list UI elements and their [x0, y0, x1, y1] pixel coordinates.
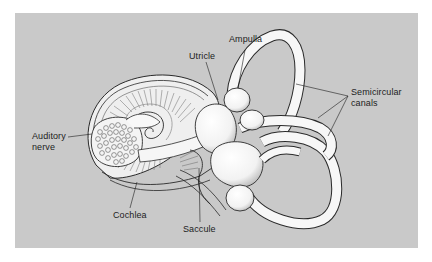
ampulla-upper-shape: [224, 88, 250, 112]
label-utricle: Utricle: [189, 51, 215, 61]
label-auditory-nerve-line2: nerve: [32, 142, 55, 152]
label-ampulla: Ampulla: [229, 34, 262, 44]
ampulla-middle-shape: [240, 110, 264, 130]
label-semicircular-canals-line1: Semicircular: [351, 87, 402, 97]
label-auditory-nerve-line1: Auditory: [32, 131, 66, 141]
ampulla-lower-shape: [226, 185, 254, 211]
label-cochlea: Cochlea: [113, 210, 147, 220]
label-saccule: Saccule: [183, 224, 216, 234]
label-semicircular-canals-line2: canals: [351, 98, 378, 108]
